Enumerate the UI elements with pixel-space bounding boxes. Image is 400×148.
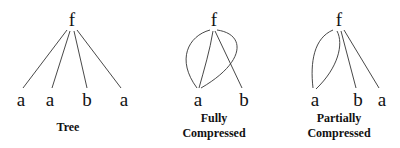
fully-caption-line-2: Compressed <box>182 126 245 140</box>
tree-leaf-a-1: a <box>17 89 26 110</box>
partially-edge-3 <box>341 31 356 88</box>
tree-edge-2 <box>52 31 70 88</box>
fully-leaf-b: b <box>239 89 249 110</box>
fully-edge-4 <box>215 31 242 88</box>
fully-root-node: f <box>211 9 218 30</box>
tree-edge-3 <box>74 31 87 88</box>
partially-caption-line-2: Compressed <box>307 126 370 140</box>
tree-edge-1 <box>23 30 67 88</box>
tree-leaf-a-2: a <box>46 89 55 110</box>
fully-leaf-a: a <box>194 89 203 110</box>
partially-edge-4 <box>344 30 379 88</box>
tree-leaf-a-3: a <box>120 89 129 110</box>
term-compression-figure: f a a b a Tree f a b Fully Compressed f <box>0 0 400 148</box>
fully-compressed-diagram: f a b Fully Compressed <box>182 9 248 140</box>
partially-caption-line-1: Partially <box>317 111 362 125</box>
partially-root-node: f <box>336 9 343 30</box>
partially-leaf-b: b <box>353 89 363 110</box>
tree-leaf-b: b <box>82 89 92 110</box>
partially-compressed-diagram: f a b a Partially Compressed <box>307 9 386 140</box>
tree-root-node: f <box>69 9 76 30</box>
tree-caption: Tree <box>57 120 81 134</box>
partially-leaf-a-1: a <box>311 89 320 110</box>
tree-diagram: f a a b a Tree <box>17 9 129 134</box>
fully-caption-line-1: Fully <box>201 111 228 125</box>
fully-edge-2 <box>199 31 213 88</box>
partially-leaf-a-2: a <box>378 89 387 110</box>
fully-edge-1 <box>186 30 210 88</box>
partially-edge-1 <box>312 30 333 88</box>
tree-edge-4 <box>77 30 121 88</box>
partially-edge-2 <box>316 31 340 89</box>
